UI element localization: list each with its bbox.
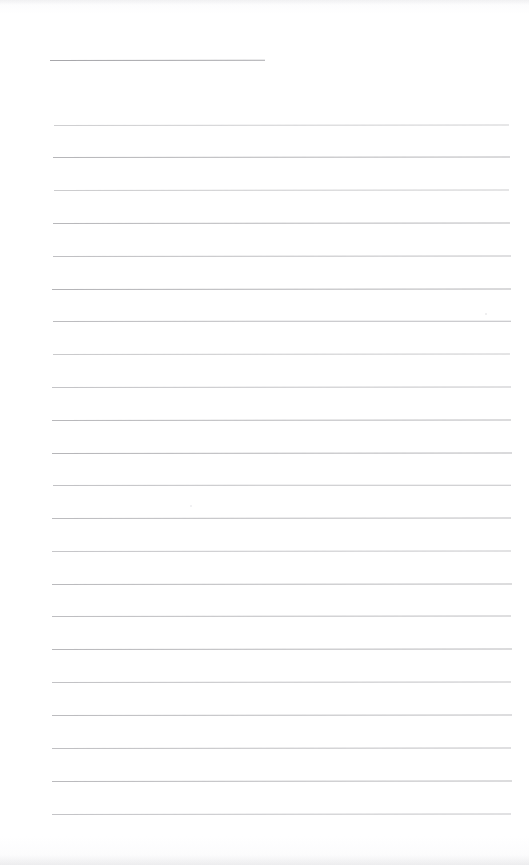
ruled-line — [52, 748, 511, 749]
ruled-line — [52, 387, 511, 388]
scanned-page — [0, 0, 529, 865]
ruled-line — [52, 781, 512, 782]
ruled-line — [52, 715, 512, 716]
ruled-line — [52, 453, 512, 454]
ruled-line — [52, 616, 511, 617]
ruled-line — [52, 288, 511, 290]
header-rule — [50, 60, 265, 61]
scan-edge-band-top — [0, 0, 529, 5]
paper-surface — [0, 0, 529, 865]
ruled-line — [53, 156, 510, 158]
ruled-line — [54, 190, 509, 191]
ruled-line — [52, 584, 512, 585]
ruled-line — [52, 518, 511, 519]
ruled-line — [54, 125, 509, 126]
ruled-line — [52, 420, 511, 421]
ruled-line — [52, 814, 511, 815]
ruled-line — [53, 223, 510, 224]
scan-edge-band-bottom — [0, 855, 529, 865]
ruled-line — [53, 354, 510, 355]
ruled-line — [52, 551, 511, 552]
ruled-line — [53, 485, 511, 486]
ruled-line — [52, 649, 512, 650]
speck-mid-left — [190, 505, 192, 507]
ruled-line — [53, 321, 511, 322]
ruled-line — [53, 256, 511, 257]
ruled-line — [52, 682, 511, 683]
speck-upper-right — [485, 313, 487, 315]
